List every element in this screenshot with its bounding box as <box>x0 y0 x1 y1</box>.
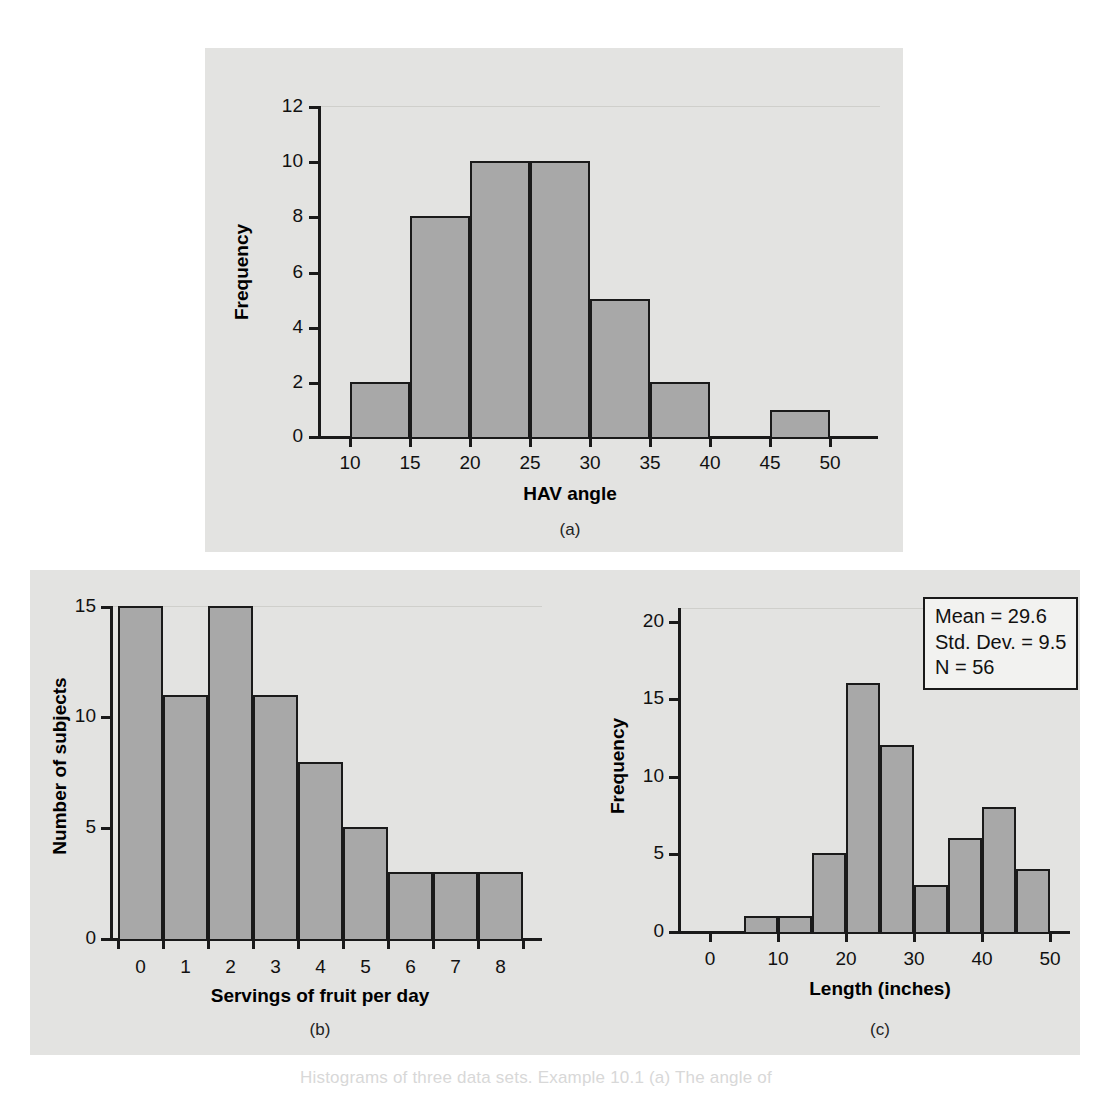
x-ticklabel-c-50: 50 <box>1025 948 1075 970</box>
x-tick-b-left-edge <box>117 938 120 949</box>
y-ticklabel-a-4: 4 <box>261 316 303 338</box>
x-ticklabel-a-45: 45 <box>745 452 795 474</box>
bar-c-35-40 <box>948 838 982 934</box>
y-ticklabel-a-10: 10 <box>261 150 303 172</box>
x-ticklabel-c-0: 0 <box>685 948 735 970</box>
y-ticklabel-b-15: 15 <box>54 595 96 617</box>
figure-page: 12 10 8 6 4 2 0 Frequency 10 15 20 25 30 <box>0 0 1120 1093</box>
bar-b-5 <box>343 827 388 941</box>
y-axis-title-c: Frequency <box>607 686 629 846</box>
bar-c-30-35 <box>914 885 948 934</box>
x-ticklabel-b-7: 7 <box>430 956 481 978</box>
x-ticklabel-a-40: 40 <box>685 452 735 474</box>
x-tick-a-15 <box>409 436 412 447</box>
x-ticklabel-c-20: 20 <box>821 948 871 970</box>
chart-b-servings-of-fruit: 15 10 5 0 Number of subjects 0 1 2 3 4 <box>30 570 550 1055</box>
x-ticklabel-a-50: 50 <box>805 452 855 474</box>
x-tick-b-7-8 <box>477 938 480 949</box>
y-tick-a-8 <box>309 216 319 219</box>
x-ticklabel-a-10: 10 <box>325 452 375 474</box>
stats-mean: Mean = 29.6 <box>935 604 1066 630</box>
x-ticklabel-a-25: 25 <box>505 452 555 474</box>
bar-c-10-15 <box>778 916 812 934</box>
x-ticklabel-b-0: 0 <box>115 956 166 978</box>
bar-b-4 <box>298 762 343 941</box>
x-tick-a-35 <box>649 436 652 447</box>
bar-a-10-15 <box>350 382 410 439</box>
y-tick-c-20 <box>669 621 679 624</box>
x-tick-a-20 <box>469 436 472 447</box>
y-ticklabel-c-20: 20 <box>618 610 664 632</box>
x-tick-b-3-4 <box>297 938 300 949</box>
top-gridline-a <box>320 106 880 107</box>
y-tick-c-10 <box>669 776 679 779</box>
bar-a-35-40 <box>650 382 710 439</box>
x-ticklabel-b-3: 3 <box>250 956 301 978</box>
x-ticklabel-a-30: 30 <box>565 452 615 474</box>
x-tick-c-20 <box>845 931 848 942</box>
bar-b-7 <box>433 872 478 941</box>
y-tick-b-10 <box>101 716 111 719</box>
y-tick-a-2 <box>309 382 319 385</box>
bar-b-1 <box>163 695 208 941</box>
x-tick-b-right-edge <box>522 938 525 949</box>
x-tick-b-2-3 <box>252 938 255 949</box>
y-tick-b-5 <box>101 827 111 830</box>
y-axis-line-b <box>110 606 113 940</box>
x-tick-c-0 <box>709 931 712 942</box>
caption-b: (b) <box>285 1020 355 1040</box>
y-ticklabel-a-6: 6 <box>261 261 303 283</box>
x-ticklabel-b-8: 8 <box>475 956 526 978</box>
x-tick-c-50 <box>1049 931 1052 942</box>
y-ticklabel-b-0: 0 <box>54 927 96 949</box>
caption-a: (a) <box>535 520 605 540</box>
y-tick-a-6 <box>309 272 319 275</box>
y-tick-a-4 <box>309 327 319 330</box>
x-ticklabel-b-5: 5 <box>340 956 391 978</box>
x-ticklabel-c-10: 10 <box>753 948 803 970</box>
y-tick-a-10 <box>309 161 319 164</box>
bar-a-25-30 <box>530 161 590 439</box>
y-tick-a-0 <box>309 436 319 439</box>
x-tick-b-1-2 <box>207 938 210 949</box>
x-ticklabel-b-4: 4 <box>295 956 346 978</box>
x-ticklabel-a-35: 35 <box>625 452 675 474</box>
x-tick-b-0-1 <box>162 938 165 949</box>
x-tick-b-5-6 <box>387 938 390 949</box>
bar-c-15-20 <box>812 853 846 934</box>
y-axis-title-a: Frequency <box>231 192 253 352</box>
x-axis-title-b: Servings of fruit per day <box>140 985 500 1007</box>
stats-box-c: Mean = 29.6 Std. Dev. = 9.5 N = 56 <box>923 597 1078 690</box>
bar-a-30-35 <box>590 299 650 439</box>
chart-c-length-inches: 20 15 10 5 0 Frequency 0 10 20 30 40 50 … <box>560 570 1080 1055</box>
x-ticklabel-b-1: 1 <box>160 956 211 978</box>
x-axis-title-c: Length (inches) <box>745 978 1015 1000</box>
y-ticklabel-a-8: 8 <box>261 205 303 227</box>
bar-a-20-25 <box>470 161 530 439</box>
stats-std-dev: Std. Dev. = 9.5 <box>935 630 1066 656</box>
x-ticklabel-a-15: 15 <box>385 452 435 474</box>
bar-b-6 <box>388 872 433 941</box>
bar-b-2 <box>208 606 253 941</box>
bar-a-15-20 <box>410 216 470 439</box>
bar-b-8 <box>478 872 523 941</box>
x-ticklabel-b-6: 6 <box>385 956 436 978</box>
x-tick-a-25 <box>529 436 532 447</box>
bar-c-25-30 <box>880 745 914 934</box>
caption-c: (c) <box>845 1020 915 1040</box>
x-tick-c-30 <box>913 931 916 942</box>
bar-c-40-45 <box>982 807 1016 934</box>
x-axis-title-a: HAV angle <box>440 483 700 505</box>
x-tick-a-40 <box>709 436 712 447</box>
x-tick-c-10 <box>777 931 780 942</box>
y-ticklabel-a-0: 0 <box>261 425 303 447</box>
x-tick-a-10 <box>349 436 352 447</box>
chart-a-hav-angle: 12 10 8 6 4 2 0 Frequency 10 15 20 25 30 <box>205 48 903 552</box>
bar-a-45-50 <box>770 410 830 439</box>
x-tick-a-50 <box>829 436 832 447</box>
x-tick-c-40 <box>981 931 984 942</box>
x-ticklabel-a-20: 20 <box>445 452 495 474</box>
x-tick-b-4-5 <box>342 938 345 949</box>
x-ticklabel-b-2: 2 <box>205 956 256 978</box>
y-tick-c-0 <box>669 931 679 934</box>
